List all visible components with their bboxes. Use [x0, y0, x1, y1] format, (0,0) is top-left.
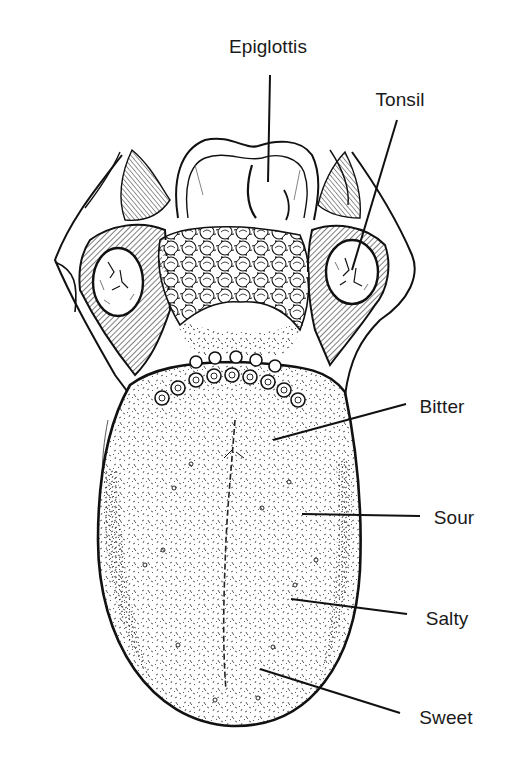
label-tonsil: Tonsil: [375, 89, 424, 111]
tongue-diagram: Epiglottis Tonsil Bitter Sour Salty Swee…: [0, 0, 507, 757]
epiglottis: [176, 139, 318, 220]
lingual-tonsil: [159, 227, 309, 330]
right-vallecula-fold: [318, 152, 360, 218]
left-tonsil: [93, 248, 143, 316]
tongue-illustration: [0, 0, 507, 757]
label-epiglottis: Epiglottis: [229, 36, 307, 58]
label-bitter: Bitter: [420, 396, 465, 418]
right-tonsil: [326, 240, 378, 304]
left-vallecula-fold: [121, 150, 170, 220]
label-salty: Salty: [426, 608, 469, 630]
label-sweet: Sweet: [419, 707, 472, 729]
label-sour: Sour: [434, 507, 475, 529]
